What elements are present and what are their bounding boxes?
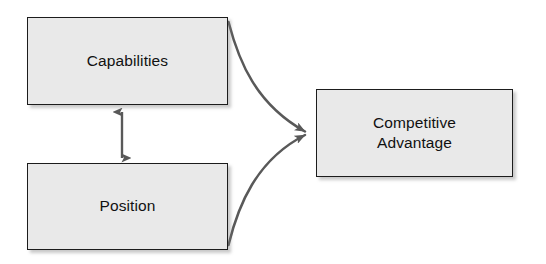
- diagram-canvas: Capabilities Position Competitive Advant…: [0, 0, 546, 264]
- node-competitive-advantage[interactable]: Competitive Advantage: [316, 89, 513, 177]
- node-competitive-advantage-label: Competitive Advantage: [369, 113, 460, 153]
- curve-capabilities-to-advantage: [229, 22, 306, 132]
- node-position[interactable]: Position: [27, 163, 228, 250]
- curve-position-to-advantage: [229, 135, 306, 245]
- connector-capabilities-to-advantage: [229, 22, 306, 132]
- node-position-label: Position: [96, 196, 160, 216]
- connector-position-to-advantage: [229, 135, 306, 245]
- node-capabilities[interactable]: Capabilities: [27, 17, 228, 105]
- node-capabilities-label: Capabilities: [83, 51, 172, 71]
